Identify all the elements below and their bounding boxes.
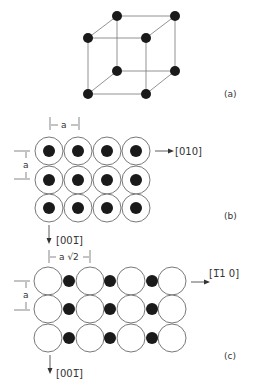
panel-b-label: (b): [224, 211, 237, 221]
panel-b-direction-right: [010]: [175, 146, 202, 157]
panel-c-arrow-down: [48, 355, 53, 374]
cube-atoms: [83, 11, 180, 99]
panel-b-lattice: [35, 137, 150, 222]
cube-unit-cell: [88, 16, 175, 94]
panel-b-spacing-label: a: [61, 120, 67, 130]
panel-b-arrow-down: [47, 225, 52, 244]
figure-canvas: (a) a a [010] (b) [001̅] a √: [0, 0, 256, 388]
panel-a-label: (a): [224, 89, 237, 99]
panel-c-lattice: [34, 267, 186, 352]
panel-b-direction-down: [001̅]: [56, 235, 83, 246]
panel-c-label: (c): [224, 351, 236, 361]
panel-c-vertical-spacing-label: a: [23, 290, 29, 300]
panel-c-arrow-right: [191, 280, 210, 285]
panel-b-vertical-spacing-label: a: [23, 160, 29, 170]
panel-c-direction-right: [1̅1 0]: [209, 268, 239, 279]
panel-c-spacing-label: a √2: [59, 252, 79, 262]
panel-b-arrow-right: [155, 149, 174, 154]
panel-c-direction-down: [001̅]: [56, 368, 83, 379]
